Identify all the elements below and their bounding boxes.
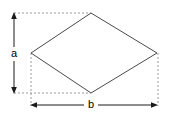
dimension-b-arrow-right: [151, 102, 158, 108]
dimension-b-group: b: [30, 98, 158, 112]
dimension-a-group: a: [8, 12, 20, 94]
dimension-a-label: a: [11, 47, 18, 59]
rhombus-diagram: a b: [0, 0, 172, 119]
rhombus-shape: [31, 13, 157, 93]
dimension-b-label: b: [88, 98, 94, 110]
dimension-b-arrow-left: [30, 102, 37, 108]
diagram-canvas: a b: [0, 0, 172, 119]
